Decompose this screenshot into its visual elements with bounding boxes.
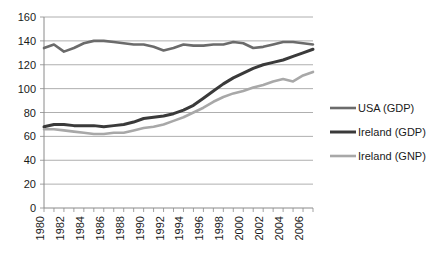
line-chart: 020406080100120140160 198019821984198619… [0, 0, 432, 259]
x-tick-label-1998: 1998 [213, 216, 225, 240]
legend-item-2[interactable]: Ireland (GNP) [330, 150, 426, 162]
y-tick-label-40: 40 [24, 154, 36, 166]
legend-item-0[interactable]: USA (GDP) [330, 102, 414, 114]
y-tick-label-120: 120 [18, 59, 36, 71]
x-tick-label-1986: 1986 [94, 216, 106, 240]
y-tick-label-100: 100 [18, 83, 36, 95]
x-tick-label-1982: 1982 [54, 216, 66, 240]
x-tick-label-1980: 1980 [34, 216, 46, 240]
data-series-group [44, 41, 313, 134]
x-tick-label-2000: 2000 [233, 216, 245, 240]
x-tick-label-1990: 1990 [134, 216, 146, 240]
series-line-usa-gdp [44, 41, 313, 52]
legend-label: Ireland (GNP) [358, 150, 426, 162]
legend-label: USA (GDP) [358, 102, 414, 114]
y-tick-label-160: 160 [18, 11, 36, 23]
x-tick-label-2004: 2004 [273, 216, 285, 240]
y-tick-label-80: 80 [24, 107, 36, 119]
y-tick-label-20: 20 [24, 178, 36, 190]
legend-item-1[interactable]: Ireland (GDP) [330, 126, 426, 138]
x-tick-label-1984: 1984 [74, 216, 86, 240]
chart-legend: USA (GDP)Ireland (GDP)Ireland (GNP) [330, 102, 426, 162]
chart-container: 020406080100120140160 198019821984198619… [0, 0, 432, 259]
legend-label: Ireland (GDP) [358, 126, 426, 138]
x-tick-label-1994: 1994 [173, 216, 185, 240]
x-axis-labels-group: 1980198219841986198819901992199419961998… [34, 216, 305, 240]
x-tick-label-2006: 2006 [293, 216, 305, 240]
y-tick-label-60: 60 [24, 130, 36, 142]
x-tick-label-1988: 1988 [114, 216, 126, 240]
y-tick-label-0: 0 [30, 202, 36, 214]
y-axis-labels-group: 020406080100120140160 [18, 11, 36, 214]
x-tick-label-1992: 1992 [154, 216, 166, 240]
y-tick-label-140: 140 [18, 35, 36, 47]
x-tick-label-1996: 1996 [193, 216, 205, 240]
series-line-ireland-gdp [44, 49, 313, 127]
x-tick-label-2002: 2002 [253, 216, 265, 240]
